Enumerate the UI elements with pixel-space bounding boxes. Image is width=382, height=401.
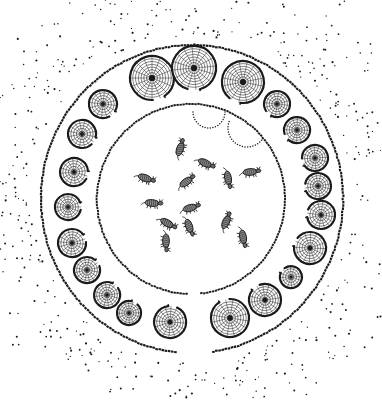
stipple-dot xyxy=(355,111,357,113)
fence-post xyxy=(331,141,334,144)
stipple-dot xyxy=(299,71,301,73)
stipple-dot xyxy=(360,52,362,54)
fence-post xyxy=(62,116,65,119)
fence-post xyxy=(332,251,335,254)
fence-post xyxy=(339,165,342,168)
stipple-dot xyxy=(242,381,244,383)
doorway-arcs xyxy=(192,111,262,148)
fence-post xyxy=(325,266,328,269)
stipple-dot xyxy=(13,88,15,90)
fence-post xyxy=(159,287,162,290)
stipple-dot xyxy=(110,20,112,22)
fence-post xyxy=(55,264,58,267)
stipple-dot xyxy=(323,293,325,295)
fence-post xyxy=(281,74,284,77)
stipple-dot xyxy=(14,186,16,188)
stipple-dot xyxy=(170,9,171,10)
stipple-dot xyxy=(17,38,19,40)
fence-post xyxy=(280,171,283,174)
stipple-dot xyxy=(362,245,363,246)
fence-post xyxy=(89,84,92,87)
stipple-dot xyxy=(243,357,245,359)
stipple-dot xyxy=(121,351,123,353)
stipple-dot xyxy=(31,223,33,225)
fence-post xyxy=(339,169,342,172)
fence-post xyxy=(284,192,286,195)
doorway-dot xyxy=(228,121,230,123)
stipple-dot xyxy=(293,340,295,342)
stipple-dot xyxy=(332,358,334,360)
fence-post xyxy=(278,230,281,233)
fence-post xyxy=(161,349,164,352)
stipple-dot xyxy=(12,165,13,166)
hut-door xyxy=(200,89,201,91)
fence-post xyxy=(40,186,42,189)
hut-door xyxy=(83,234,85,235)
hut xyxy=(89,90,117,118)
fence-post xyxy=(41,180,43,183)
fence-post xyxy=(49,250,52,253)
fence-post xyxy=(200,292,203,294)
inner-cattle-enclosure xyxy=(96,103,286,295)
stipple-dot xyxy=(306,394,308,396)
fence-post xyxy=(101,321,104,324)
stipple-dot xyxy=(302,369,304,371)
fence-post xyxy=(96,77,99,80)
fence-post xyxy=(45,157,48,160)
fence-post xyxy=(131,56,134,59)
doorway-dot xyxy=(228,123,230,125)
fence-post xyxy=(278,165,281,168)
stipple-dot xyxy=(348,105,349,106)
stipple-dot xyxy=(0,248,1,249)
stipple-dot xyxy=(23,64,25,66)
stipple-dot xyxy=(56,330,58,332)
fence-post xyxy=(177,45,180,47)
fence-post xyxy=(335,153,338,156)
fence-post xyxy=(298,305,301,308)
fence-post xyxy=(203,44,206,46)
fence-post xyxy=(209,105,212,107)
stipple-dot xyxy=(70,350,72,352)
stipple-dot xyxy=(0,97,1,98)
stipple-dot xyxy=(297,33,298,34)
fence-post xyxy=(52,136,55,139)
fence-post xyxy=(130,124,133,127)
fence-post xyxy=(281,320,284,323)
fence-post xyxy=(173,292,176,294)
fence-post xyxy=(293,310,296,313)
fence-post xyxy=(45,154,48,157)
stipple-dot xyxy=(344,280,345,281)
fence-post xyxy=(212,290,215,292)
stipple-dot xyxy=(116,376,118,378)
fence-post xyxy=(108,243,111,246)
fence-post xyxy=(108,68,111,71)
stipple-dot xyxy=(242,362,244,364)
stipple-dot xyxy=(265,353,267,355)
stipple-dot xyxy=(231,8,232,9)
stipple-dot xyxy=(335,102,337,104)
stipple-dot xyxy=(44,346,46,348)
fence-post xyxy=(315,286,318,289)
stipple-dot xyxy=(246,370,247,371)
stipple-dot xyxy=(99,342,101,344)
stipple-dot xyxy=(362,195,364,197)
stipple-dot xyxy=(68,359,70,361)
fence-post xyxy=(96,195,98,197)
fence-post xyxy=(62,279,65,282)
stipple-dot xyxy=(301,364,303,366)
hut xyxy=(94,282,120,309)
stipple-dot xyxy=(235,380,237,382)
fence-post xyxy=(111,328,114,331)
stipple-dot xyxy=(188,15,190,17)
stipple-dot xyxy=(334,355,335,356)
stipple-dot xyxy=(289,328,291,330)
doorway-dot xyxy=(212,127,214,129)
fence-post xyxy=(152,346,155,349)
stipple-dot xyxy=(30,111,32,113)
stipple-dot xyxy=(364,286,366,288)
stipple-dot xyxy=(257,33,259,35)
stipple-dot xyxy=(323,65,325,67)
fence-post xyxy=(281,221,283,224)
fence-post xyxy=(242,118,245,121)
stipple-dot xyxy=(321,74,323,76)
